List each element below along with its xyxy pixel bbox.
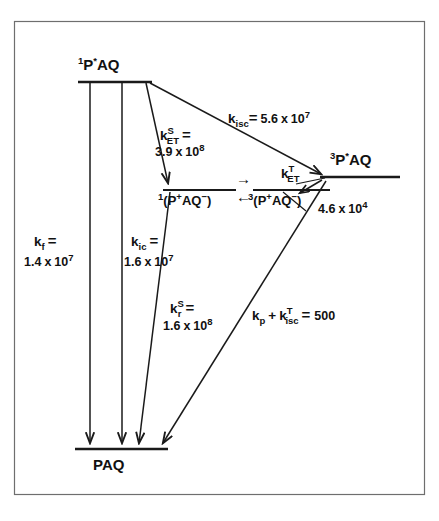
svg-text:1.6x107: 1.6x107 (124, 252, 174, 269)
ct-forward-arrow: → (236, 170, 251, 187)
svg-text:3.9x108: 3.9x108 (155, 142, 205, 159)
ct-reverse-arrow: ← (236, 188, 251, 205)
svg-text:kSET=: kSET= (160, 125, 191, 146)
label-rate-ket-singlet: kSET= 3.9x108 (155, 125, 205, 159)
svg-text:kTET: kTET (281, 163, 300, 184)
svg-text:3(P+AQ−): 3(P+AQ−) (248, 191, 301, 208)
transition-charge-recombination-singlet (139, 192, 170, 443)
label-rate-kisc: kisc=5.6x107 (228, 109, 310, 129)
svg-text:4.6x104: 4.6x104 (318, 199, 368, 216)
svg-text:kp+kTisc=500: kp+kTisc=500 (252, 305, 335, 326)
svg-text:kisc=5.6x107: kisc=5.6x107 (228, 109, 310, 129)
label-excited-triplet: 3P*AQ (330, 150, 372, 168)
label-excited-singlet: 1P*AQ (78, 55, 120, 73)
svg-text:1(P+AQ−): 1(P+AQ−) (158, 191, 211, 208)
figure-border (15, 22, 425, 495)
label-rate-kr-singlet: kSr= 1.6x108 (163, 298, 213, 333)
label-rate-kic: kic= 1.6x107 (124, 232, 174, 269)
svg-text:kf=: kf= (34, 232, 57, 252)
svg-text:3P*AQ: 3P*AQ (330, 150, 372, 168)
svg-text:1.6x108: 1.6x108 (163, 316, 213, 333)
label-rate-kp-plus-kisc-triplet: kp+kTisc=500 (252, 305, 335, 326)
svg-text:kSr=: kSr= (170, 298, 195, 319)
svg-text:kic=: kic= (131, 232, 158, 252)
figure-root: 1P*AQ 3P*AQ 1(P+AQ−) 3(P+AQ−) → ← PAQ (0, 0, 439, 521)
svg-text:1.4x107: 1.4x107 (24, 252, 74, 269)
label-ct-singlet: 1(P+AQ−) (158, 191, 211, 208)
energy-level-diagram: 1P*AQ 3P*AQ 1(P+AQ−) 3(P+AQ−) → ← PAQ (0, 0, 439, 521)
label-ct-triplet: 3(P+AQ−) (248, 191, 301, 208)
label-rate-kf: kf= 1.4x107 (24, 232, 74, 269)
label-ground-state: PAQ (93, 456, 125, 473)
svg-text:1P*AQ: 1P*AQ (78, 55, 120, 73)
